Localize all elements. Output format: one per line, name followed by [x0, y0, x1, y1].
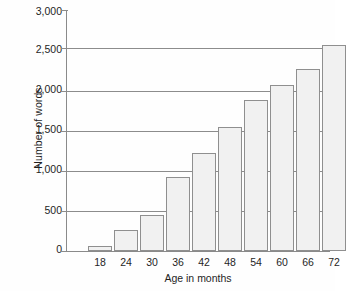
- y-tick-label-500: 500: [18, 205, 62, 215]
- x-tick-label-24: 24: [112, 256, 140, 268]
- x-axis-title: Age in months: [66, 272, 330, 284]
- bar-30: [140, 215, 164, 251]
- x-axis-tick-labels: 18 24 30 36 42 48 54 60 66 72: [66, 256, 330, 270]
- x-tick-label-72: 72: [320, 256, 348, 268]
- bar-54: [244, 100, 268, 251]
- bar-36: [166, 177, 190, 251]
- bar-series: [66, 10, 330, 252]
- bar-48: [218, 127, 242, 251]
- y-tick-label-2000: 2,000: [18, 84, 62, 94]
- x-tick-label-42: 42: [190, 256, 218, 268]
- bar-24: [114, 230, 138, 251]
- y-axis-tick-labels: 3,000 2,500 2,000 1,500 1,000 500 0: [10, 0, 62, 291]
- x-tick-label-36: 36: [164, 256, 192, 268]
- x-tick-label-66: 66: [294, 256, 322, 268]
- x-tick-label-30: 30: [138, 256, 166, 268]
- x-tick-label-48: 48: [216, 256, 244, 268]
- y-tick-label-2500: 2,500: [18, 44, 62, 54]
- y-tick-label-1500: 1,500: [18, 124, 62, 134]
- bar-18: [88, 246, 112, 251]
- y-tick-label-3000: 3,000: [18, 6, 62, 16]
- x-tick-label-54: 54: [242, 256, 270, 268]
- plot-area: [66, 10, 330, 252]
- y-tick-label-1000: 1,000: [18, 164, 62, 174]
- x-tick-label-18: 18: [86, 256, 114, 268]
- bar-66: [296, 69, 320, 251]
- bar-60: [270, 85, 294, 251]
- x-tick-label-60: 60: [268, 256, 296, 268]
- bar-42: [192, 153, 216, 251]
- bar-72: [322, 45, 346, 251]
- y-tick-label-0: 0: [18, 244, 62, 254]
